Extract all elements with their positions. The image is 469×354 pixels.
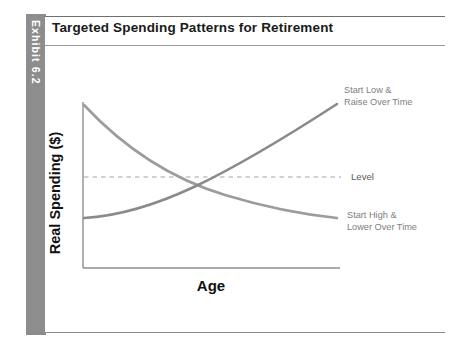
page-title: Targeted Spending Patterns for Retiremen… (52, 20, 432, 35)
annotation-line-2: Raise Over Time (344, 97, 412, 109)
exhibit-tab-label: Exhibit 6.2 (30, 20, 42, 85)
y-axis-label: Real Spending ($) (47, 118, 63, 268)
annotation-level: Level (351, 171, 374, 183)
annotation-line-1: Start High & (347, 210, 417, 222)
title-divider (45, 45, 445, 46)
annotation-start-low-raise: Start Low & Raise Over Time (344, 85, 412, 108)
annotation-start-high-lower: Start High & Lower Over Time (347, 210, 417, 233)
annotation-line-2: Lower Over Time (347, 222, 417, 234)
exhibit-tab: Exhibit 6.2 (26, 14, 46, 335)
annotation-line-1: Start Low & (344, 85, 412, 97)
x-axis-label: Age (82, 277, 340, 294)
